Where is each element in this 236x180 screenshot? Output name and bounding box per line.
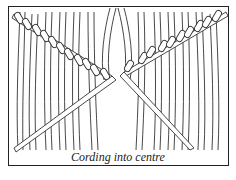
figure-caption: Cording into centre [0, 150, 236, 165]
